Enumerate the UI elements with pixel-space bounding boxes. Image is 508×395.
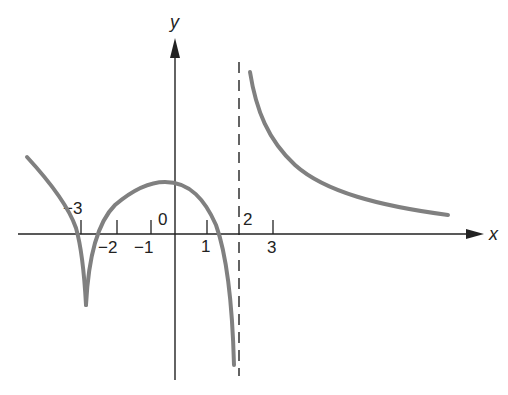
y-axis-arrowhead-icon [170, 38, 180, 58]
curve-right-branch [250, 72, 448, 215]
tick-label-neg2: −2 [98, 238, 117, 257]
tick-label-0: 0 [158, 210, 167, 229]
x-axis-label: x [488, 224, 499, 244]
tick-label-1: 1 [201, 237, 210, 256]
tick-label-neg1: −1 [134, 238, 153, 257]
function-graph: x y −3 −2 −1 0 1 2 3 [0, 0, 508, 395]
tick-label-3: 3 [267, 238, 276, 257]
y-axis-label: y [168, 12, 180, 32]
x-axis-arrowhead-icon [466, 229, 484, 239]
tick-label-2: 2 [243, 210, 252, 229]
curve-left-branch [27, 157, 86, 305]
